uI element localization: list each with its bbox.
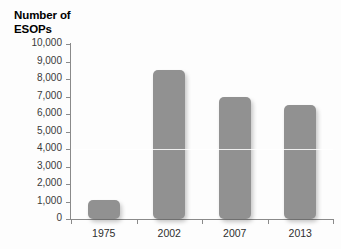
x-axis-tick-label: 2013 <box>268 227 334 239</box>
highlight-gridline <box>71 149 333 150</box>
bar <box>153 70 185 219</box>
x-axis-tick-label: 1975 <box>71 227 137 239</box>
bar <box>88 200 120 219</box>
y-axis-tick-label: 1,000 <box>37 195 62 206</box>
y-axis-tick-label: 3,000 <box>37 160 62 171</box>
y-axis-tick-mark <box>66 132 71 133</box>
y-axis-tick-label: 7,000 <box>37 90 62 101</box>
x-axis-tick-mark <box>137 219 138 224</box>
y-axis-tick-label: 8,000 <box>37 72 62 83</box>
y-axis-tick-label: 2,000 <box>37 177 62 188</box>
y-axis-tick-mark <box>66 202 71 203</box>
y-axis-tick-label: 10,000 <box>31 37 62 48</box>
x-axis-tick-mark <box>268 219 269 224</box>
x-axis-tick-label: 2002 <box>137 227 203 239</box>
y-axis-tick-mark <box>66 167 71 168</box>
y-axis-tick-mark <box>66 44 71 45</box>
x-axis-tick-mark <box>71 219 72 224</box>
chart-container: Number of ESOPs 01,0002,0003,0004,0005,0… <box>0 0 341 249</box>
x-axis-tick-label: 2007 <box>202 227 268 239</box>
y-axis-tick-label: 9,000 <box>37 55 62 66</box>
y-axis-tick-mark <box>66 62 71 63</box>
y-axis-tick-mark <box>66 114 71 115</box>
x-axis-tick-mark <box>202 219 203 224</box>
x-axis-tick-mark <box>333 219 334 224</box>
chart-title: Number of ESOPs <box>14 8 71 36</box>
y-axis-tick-mark <box>66 97 71 98</box>
y-axis-tick-label: 0 <box>56 212 62 223</box>
y-axis-tick-mark <box>66 79 71 80</box>
y-axis-tick-mark <box>66 184 71 185</box>
y-axis-tick-label: 5,000 <box>37 125 62 136</box>
bar <box>284 105 316 219</box>
y-axis-tick-label: 6,000 <box>37 107 62 118</box>
y-axis-tick-label: 4,000 <box>37 142 62 153</box>
bar <box>219 97 251 219</box>
